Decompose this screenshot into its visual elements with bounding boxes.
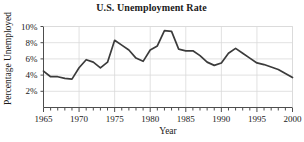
- unemployment-line: [44, 31, 293, 80]
- x-tick-label: 1980: [133, 114, 167, 124]
- x-tick-label: 1990: [204, 114, 238, 124]
- x-tick-label: 2000: [276, 114, 304, 124]
- y-tick-label: 4%: [10, 70, 38, 80]
- x-tick-label: 1975: [98, 114, 132, 124]
- chart-figure: U.S. Unemployment Rate Percentage Unempl…: [0, 0, 303, 142]
- x-tick-label: 1965: [27, 114, 61, 124]
- x-tick-label: 1995: [240, 114, 274, 124]
- y-tick-label: 10%: [10, 22, 38, 32]
- y-tick-label: 8%: [10, 38, 38, 48]
- x-axis-minor-ticks: [44, 108, 293, 113]
- x-tick-label: 1985: [169, 114, 203, 124]
- y-tick-label: 2%: [10, 86, 38, 96]
- x-axis-title: Year: [43, 126, 293, 137]
- x-tick-label: 1970: [62, 114, 96, 124]
- y-tick-label: 6%: [10, 54, 38, 64]
